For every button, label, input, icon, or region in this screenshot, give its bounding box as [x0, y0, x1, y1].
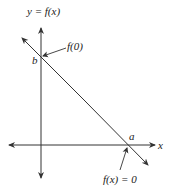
x-axis-label: x	[157, 139, 163, 151]
y-intercept-label: b	[32, 54, 38, 66]
y-axis-label: y = f(x)	[26, 5, 60, 18]
x-intercept-annotation: f(x) = 0	[103, 173, 137, 186]
f0-pointer	[43, 48, 66, 56]
fx0-pointer	[120, 148, 127, 170]
x-intercept-label: a	[129, 130, 135, 142]
function-graph: y = f(x) x b f(0) a f(x) = 0	[0, 0, 178, 190]
y-intercept-annotation: f(0)	[67, 40, 83, 53]
